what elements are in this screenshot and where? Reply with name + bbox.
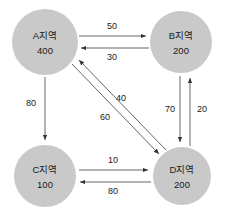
edge-a-to-d: 40 [72,64,159,154]
edge-a-to-c-label: 80 [26,98,36,108]
node-c-value: 100 [37,179,53,190]
node-b-value: 200 [173,45,189,56]
node-a-value: 400 [37,45,53,56]
edge-a-to-d-line [72,64,159,154]
node-a-circle [12,9,78,75]
edge-b-to-d-label: 70 [165,104,175,114]
edge-d-to-a: 60 [79,60,166,150]
edge-d-to-a-line [79,60,166,150]
flow-diagram: A지역 400 B지역 200 C지역 100 D지역 200 50 30 [0,0,225,218]
node-b[interactable]: B지역 200 [150,11,212,73]
edge-d-to-c-label: 80 [108,186,118,196]
node-d-label: D지역 [170,164,195,175]
node-d[interactable]: D지역 200 [153,147,211,205]
node-a-label: A지역 [33,30,57,41]
edge-b-to-a-label: 30 [107,52,117,62]
node-b-label: B지역 [169,30,193,41]
edge-a-to-c: 80 [26,77,45,140]
node-c[interactable]: C지역 100 [14,145,76,207]
node-a[interactable]: A지역 400 [12,9,78,75]
edge-d-to-c: 80 [80,182,151,196]
edge-a-to-b: 50 [79,21,146,36]
edge-a-to-b-label: 50 [107,21,117,31]
edge-b-to-d: 70 [165,76,180,142]
node-d-circle [153,147,211,205]
edge-d-to-b: 20 [190,78,207,146]
edge-c-to-d: 10 [79,155,148,170]
node-c-label: C지역 [33,164,58,175]
edge-b-to-a: 30 [81,48,149,62]
node-b-circle [150,11,212,73]
diagram-canvas: A지역 400 B지역 200 C지역 100 D지역 200 50 30 [0,0,225,218]
edge-d-to-b-label: 20 [197,104,207,114]
edge-a-to-d-label: 40 [116,93,126,103]
edge-c-to-d-label: 10 [108,155,118,165]
node-c-circle [14,145,76,207]
edge-d-to-a-label: 60 [100,112,110,122]
node-d-value: 200 [174,179,190,190]
